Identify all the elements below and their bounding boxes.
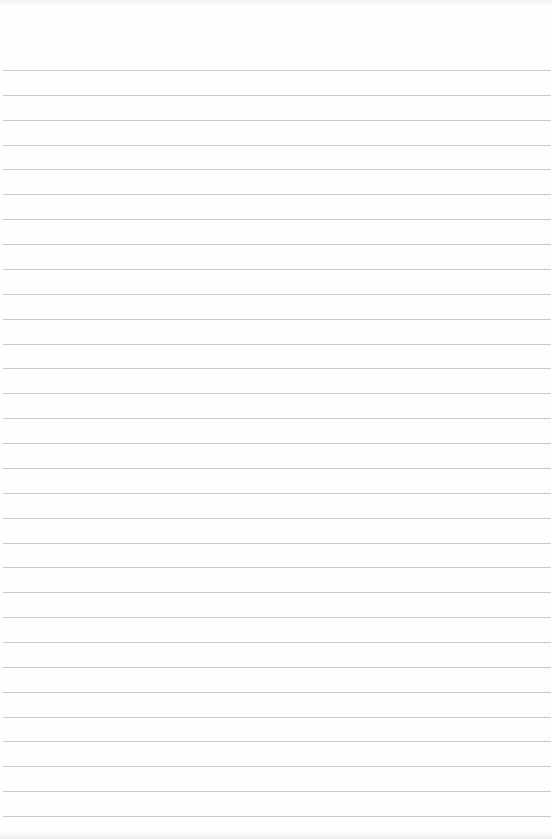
ruled-line [3, 95, 551, 96]
ruled-line [3, 543, 551, 544]
ruled-line [3, 120, 551, 121]
ruled-line [3, 642, 551, 643]
ruled-line [3, 319, 551, 320]
ruled-line [3, 344, 551, 345]
ruled-line [3, 244, 551, 245]
ruled-line [3, 269, 551, 270]
ruled-line [3, 766, 551, 767]
ruled-line [3, 617, 551, 618]
paper-top-edge [0, 0, 552, 6]
lined-paper-sheet [0, 0, 552, 839]
ruled-line [3, 518, 551, 519]
paper-bottom-edge [0, 831, 552, 839]
ruled-line [3, 741, 551, 742]
ruled-line [3, 717, 551, 718]
ruled-line [3, 169, 551, 170]
ruled-line [3, 592, 551, 593]
ruled-line [3, 468, 551, 469]
ruled-line [3, 443, 551, 444]
ruled-line [3, 194, 551, 195]
ruled-line [3, 567, 551, 568]
ruled-line [3, 219, 551, 220]
ruled-line [3, 70, 551, 71]
ruled-line [3, 418, 551, 419]
ruled-line [3, 368, 551, 369]
ruled-line [3, 816, 551, 817]
ruled-line [3, 692, 551, 693]
ruled-line [3, 294, 551, 295]
ruled-line [3, 791, 551, 792]
ruled-line [3, 145, 551, 146]
ruled-line [3, 393, 551, 394]
ruled-line [3, 667, 551, 668]
ruled-line [3, 493, 551, 494]
